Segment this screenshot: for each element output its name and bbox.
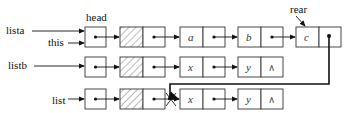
node-x-value: x	[187, 61, 193, 73]
dummy-node-data	[120, 27, 143, 47]
node-y-value: y	[245, 93, 251, 105]
null-symbol: ∧	[268, 62, 275, 73]
row-listb: x y ∧	[34, 57, 283, 77]
rear-arrow	[296, 16, 305, 26]
node-a-value: a	[188, 31, 194, 43]
row-lista: a b c	[32, 16, 341, 47]
node-y-value: y	[245, 61, 251, 73]
node-c-value: c	[304, 31, 309, 43]
lista-label: lista	[6, 24, 24, 36]
row-list: x y ∧	[68, 89, 283, 109]
linked-list-diagram: lista this head rear listb list a b c	[0, 0, 348, 113]
null-symbol: ∧	[268, 94, 275, 105]
node-b-value: b	[246, 31, 252, 43]
head-label: head	[86, 11, 107, 23]
listb-label: listb	[8, 59, 27, 71]
this-label: this	[48, 36, 64, 48]
rear-label: rear	[290, 3, 307, 15]
node-x-value: x	[187, 93, 193, 105]
list-label: list	[52, 94, 65, 106]
